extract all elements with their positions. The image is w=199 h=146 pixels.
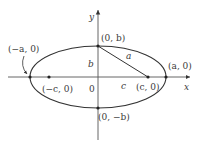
left-focus-label: (−c, 0)	[42, 84, 73, 94]
left-vertex-pointer-arrow	[23, 56, 27, 74]
x-axis-label: x	[184, 82, 189, 92]
left-focus-point	[47, 75, 50, 78]
top-vertex-label: (0, b)	[101, 33, 125, 43]
bottom-vertex-point	[96, 106, 99, 109]
ellipse-figure: y x 0 (0, b) (0, −b) (−a, 0) (a, 0) (−c,…	[0, 0, 199, 146]
segment-a	[98, 46, 148, 77]
ellipse-diagram: y x 0 (0, b) (0, −b) (−a, 0) (a, 0) (−c,…	[0, 0, 199, 146]
segment-c-label: c	[121, 81, 126, 91]
left-vertex-point	[28, 75, 31, 78]
origin-label: 0	[89, 84, 95, 94]
top-vertex-point	[96, 44, 99, 47]
segment-a-label: a	[126, 51, 131, 61]
right-focus-label: (c, 0)	[136, 82, 160, 92]
right-vertex-label: (a, 0)	[168, 61, 192, 71]
y-axis-label: y	[88, 12, 95, 22]
bottom-vertex-label: (0, −b)	[98, 112, 130, 122]
segment-b-label: b	[88, 59, 94, 69]
right-vertex-point	[164, 75, 167, 78]
right-focus-point	[146, 75, 149, 78]
left-vertex-label: (−a, 0)	[8, 44, 39, 54]
